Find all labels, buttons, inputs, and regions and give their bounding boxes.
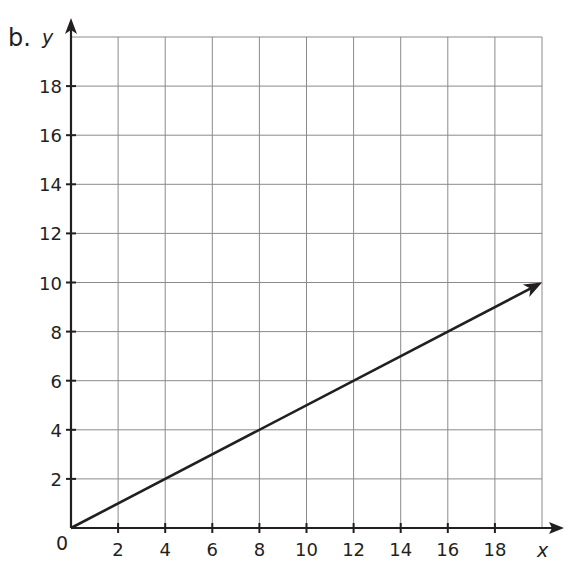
x-tick-label: 18 [483, 539, 506, 560]
x-tick-label: 10 [295, 539, 318, 560]
x-axis-label: x [536, 539, 549, 561]
x-tick-label: 4 [159, 539, 170, 560]
y-tick-label: 6 [51, 371, 62, 392]
x-tick-label: 14 [389, 539, 412, 560]
x-tick-label: 2 [112, 539, 123, 560]
y-tick-label: 2 [51, 469, 62, 490]
y-axis-label: y [41, 26, 54, 48]
tick-labels: 2468101214161824681012141618 [39, 76, 506, 560]
y-tick-label: 14 [39, 174, 62, 195]
x-tick-label: 16 [436, 539, 459, 560]
y-tick-label: 4 [51, 420, 62, 441]
x-tick-label: 12 [342, 539, 365, 560]
origin-label: 0 [56, 532, 68, 554]
axes [65, 18, 564, 534]
x-tick-label: 6 [207, 539, 218, 560]
y-tick-label: 18 [39, 76, 62, 97]
line-graph: 2468101214161824681012141618 b. y x 0 [0, 0, 564, 565]
part-label: b. [8, 24, 31, 52]
y-tick-label: 16 [39, 125, 62, 146]
y-tick-label: 12 [39, 223, 62, 244]
grid-lines [71, 37, 542, 528]
y-tick-label: 8 [51, 322, 62, 343]
y-tick-label: 10 [39, 273, 62, 294]
x-tick-label: 8 [254, 539, 265, 560]
